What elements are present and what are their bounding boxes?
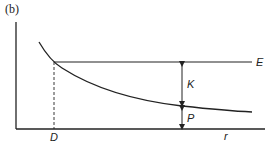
label-e: E xyxy=(256,56,264,68)
decreasing-curve xyxy=(39,42,252,112)
diagram: (b) E K P D r xyxy=(0,0,279,145)
panel-label: (b) xyxy=(5,2,19,16)
label-d: D xyxy=(50,131,58,143)
label-p: P xyxy=(187,112,195,124)
label-r: r xyxy=(224,130,229,142)
label-k: K xyxy=(187,78,195,90)
